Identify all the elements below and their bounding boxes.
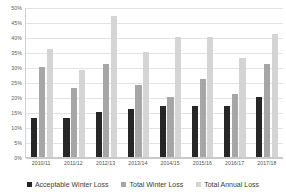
x-axis: 2010/112011/122012/132013/142014/152015/… [25, 160, 283, 172]
y-axis-tick-label: 25% [11, 80, 22, 86]
bar [167, 97, 173, 157]
bar [200, 79, 206, 157]
bar [79, 70, 85, 157]
y-axis-tick-label: 40% [11, 35, 22, 41]
bar [160, 106, 166, 157]
bar [207, 37, 213, 157]
legend-item[interactable]: Acceptable Winter Loss [27, 181, 109, 188]
gridline [26, 158, 283, 159]
bar [272, 34, 278, 157]
bar-group [90, 8, 122, 157]
legend-swatch-icon [121, 182, 126, 187]
y-axis-tick-label: 45% [11, 20, 22, 26]
bar [256, 97, 262, 157]
x-axis-tick-label: 2011/12 [57, 160, 89, 172]
bar [224, 106, 230, 157]
y-axis-tick-label: 50% [11, 5, 22, 11]
bar-group [187, 8, 219, 157]
y-axis-tick-label: 35% [11, 50, 22, 56]
bar [135, 85, 141, 157]
legend-label: Total Annual Loss [204, 181, 259, 188]
plot-area [25, 8, 283, 158]
bar [103, 64, 109, 157]
bar [96, 112, 102, 157]
plot-wrapper: 0%5%10%15%20%25%30%35%40%45%50% [0, 0, 286, 160]
bar [239, 58, 245, 157]
x-axis-tick-label: 2013/14 [122, 160, 154, 172]
bar [128, 109, 134, 157]
legend-swatch-icon [196, 182, 201, 187]
x-axis-tick-label: 2014/15 [154, 160, 186, 172]
bar-group [26, 8, 58, 157]
bar-group [58, 8, 90, 157]
bar [71, 88, 77, 157]
x-axis-tick-label: 2016/17 [219, 160, 251, 172]
legend-label: Total Winter Loss [129, 181, 183, 188]
y-axis-tick-label: 15% [11, 110, 22, 116]
x-axis-tick-label: 2010/11 [25, 160, 57, 172]
bar [31, 118, 37, 157]
bar-group [219, 8, 251, 157]
legend-swatch-icon [27, 182, 32, 187]
x-axis-tick-label: 2017/18 [251, 160, 283, 172]
bar [175, 37, 181, 157]
bar-chart: 0%5%10%15%20%25%30%35%40%45%50% 2010/112… [0, 0, 286, 195]
x-axis-tick-label: 2015/16 [186, 160, 218, 172]
bar [63, 118, 69, 157]
legend-item[interactable]: Total Winter Loss [121, 181, 183, 188]
y-axis-tick-label: 5% [14, 140, 22, 146]
bar-group [122, 8, 154, 157]
bar-group [251, 8, 283, 157]
bar [143, 52, 149, 157]
legend: Acceptable Winter LossTotal Winter LossT… [0, 176, 286, 192]
bar-groups [26, 8, 283, 157]
y-axis-tick-label: 30% [11, 65, 22, 71]
bar [47, 49, 53, 157]
bar [232, 94, 238, 157]
bar-group [155, 8, 187, 157]
bar [192, 106, 198, 157]
legend-label: Acceptable Winter Loss [35, 181, 109, 188]
bar [39, 67, 45, 157]
legend-item[interactable]: Total Annual Loss [196, 181, 259, 188]
y-axis-tick-label: 10% [11, 125, 22, 131]
x-axis-tick-label: 2012/13 [90, 160, 122, 172]
bar [111, 16, 117, 157]
y-axis-tick-label: 20% [11, 95, 22, 101]
bar [264, 64, 270, 157]
y-axis-tick-label: 0% [14, 155, 22, 161]
y-axis: 0%5%10%15%20%25%30%35%40%45%50% [0, 0, 24, 160]
